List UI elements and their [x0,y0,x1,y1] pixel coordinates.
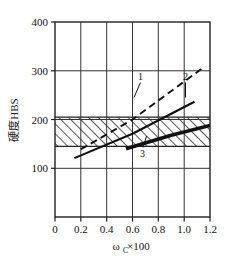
y-tick-label-100: 100 [32,162,49,174]
chart-svg: 400 300 200 100 0 0.2 0.4 0.6 0.8 1.0 1.… [0,0,234,262]
y-tick-label-400: 400 [32,16,49,28]
x-axis-title: ω C ×100 [112,240,150,255]
curve-2-label: 2 [183,71,188,82]
x-axis-title-symbol: ω [112,240,119,252]
x-tick-label-0.6: 0.6 [126,223,140,235]
x-axis-title-suffix: ×100 [127,240,150,252]
y-tick-label-200: 200 [32,114,49,126]
x-tick-label-0.8: 0.8 [151,223,165,235]
x-tick-label-0.4: 0.4 [100,223,114,235]
x-tick-label-1.2: 1.2 [203,223,217,235]
x-tick-label-1.0: 1.0 [177,223,191,235]
x-tick-label-0: 0 [52,223,58,235]
chart-figure: 400 300 200 100 0 0.2 0.4 0.6 0.8 1.0 1.… [0,0,234,262]
y-axis-title: 硬度HBS [7,98,20,141]
curve-3-label: 3 [140,148,145,159]
curve-1-label: 1 [138,71,143,82]
x-tick-label-0.2: 0.2 [74,223,88,235]
y-tick-label-300: 300 [32,65,49,77]
